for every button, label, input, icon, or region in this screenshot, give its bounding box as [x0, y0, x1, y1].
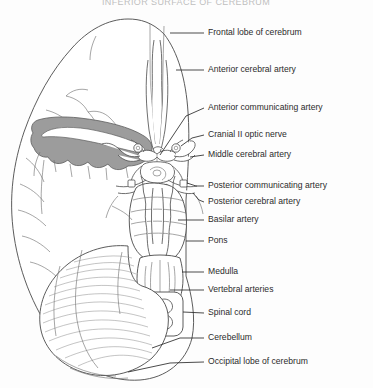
label-posterior-communicating: Posterior communicating artery: [208, 180, 328, 190]
brain-illustration: [12, 19, 203, 380]
label-middle-cerebral-artery: Middle cerebral artery: [208, 149, 292, 159]
label-pons: Pons: [208, 235, 228, 245]
label-frontal-lobe: Frontal lobe of cerebrum: [208, 27, 302, 37]
label-anterior-communicating: Anterior communicating artery: [208, 102, 323, 112]
label-medulla: Medulla: [208, 266, 238, 276]
figure-canvas: INFERIOR SURFACE OF CEREBRUM: [0, 0, 373, 388]
label-spinal-cord: Spinal cord: [208, 307, 251, 317]
label-texts: Frontal lobe of cerebrum Anterior cerebr…: [208, 27, 328, 366]
left-carotid-ring: [134, 144, 142, 152]
label-posterior-cerebral-artery: Posterior cerebral artery: [208, 196, 301, 206]
brain-inferior-view-diagram: INFERIOR SURFACE OF CEREBRUM: [0, 0, 373, 388]
label-anterior-cerebral-artery: Anterior cerebral artery: [208, 64, 297, 74]
interpeduncular-fossa: [140, 162, 174, 183]
right-carotid-ring: [172, 144, 180, 152]
label-cerebellum: Cerebellum: [208, 332, 252, 342]
left-pcom-junction: [128, 180, 135, 187]
label-basilar-artery: Basilar artery: [208, 214, 259, 224]
label-cranial-ii-optic-nerve: Cranial II optic nerve: [208, 129, 287, 139]
right-pcom-junction: [180, 180, 187, 187]
figure-title: INFERIOR SURFACE OF CEREBRUM: [102, 0, 270, 7]
label-vertebral-arteries: Vertebral arteries: [208, 284, 273, 294]
label-occipital-lobe: Occipital lobe of cerebrum: [208, 356, 308, 366]
